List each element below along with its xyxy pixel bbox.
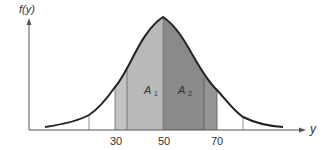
normal-distribution-figure: f(y) y 30 50 70 A 1 A 2 bbox=[0, 0, 330, 150]
tick-label-50: 50 bbox=[158, 135, 170, 147]
area-a1-outer-strip bbox=[115, 67, 127, 130]
tick-label-30: 30 bbox=[110, 135, 122, 147]
area-a2-outer-strip bbox=[204, 78, 217, 130]
y-axis-arrow-icon bbox=[27, 18, 32, 25]
area-a1-label-sub: 1 bbox=[154, 90, 158, 97]
tick-label-70: 70 bbox=[211, 135, 223, 147]
x-axis-label: y bbox=[309, 122, 317, 136]
x-axis-arrow-icon bbox=[299, 128, 306, 133]
area-a2-label-main: A bbox=[177, 84, 185, 96]
area-a1-label-main: A bbox=[143, 84, 151, 96]
area-a2-label-sub: 2 bbox=[188, 90, 192, 97]
y-axis-label: f(y) bbox=[19, 3, 35, 15]
